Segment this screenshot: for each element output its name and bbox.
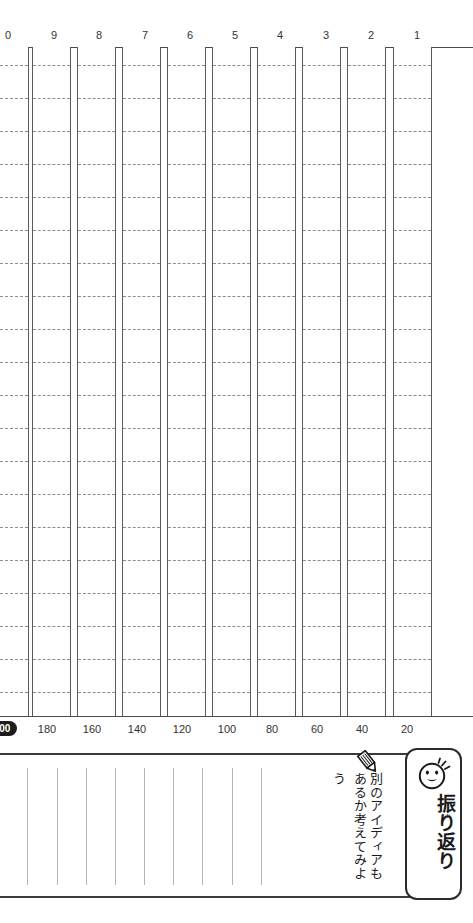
grid-column-3[interactable]: [77, 47, 116, 717]
grid-cell-divider: [394, 263, 431, 264]
reflection-prompt-line-3: う: [331, 772, 345, 786]
grid-cell-divider: [394, 428, 431, 429]
grid-cell-divider: [258, 494, 295, 495]
grid-column-1[interactable]: [0, 47, 29, 717]
grid-cell-divider: [348, 197, 385, 198]
grid-cell-divider: [33, 362, 70, 363]
grid-cell-divider: [303, 362, 340, 363]
grid-cell-divider: [348, 395, 385, 396]
grid-cell-divider: [394, 329, 431, 330]
reflection-writing-panel[interactable]: [0, 753, 462, 898]
grid-cell-divider: [123, 494, 160, 495]
grid-cell-divider: [33, 461, 70, 462]
grid-cell-divider: [394, 65, 431, 66]
grid-cell-divider: [348, 329, 385, 330]
grid-cell-divider: [78, 164, 115, 165]
grid-cell-divider: [168, 626, 205, 627]
grid-cell-divider: [213, 65, 250, 66]
grid-cell-divider: [348, 131, 385, 132]
grid-cell-divider: [258, 626, 295, 627]
grid-column-8[interactable]: [302, 47, 341, 717]
reflection-rule-line: [232, 768, 233, 885]
grid-cell-divider: [123, 395, 160, 396]
grid-cell-divider: [78, 362, 115, 363]
grid-cell-divider: [33, 263, 70, 264]
grid-cell-divider: [258, 362, 295, 363]
grid-cell-divider: [33, 626, 70, 627]
grid-cell-divider: [78, 65, 115, 66]
grid-cell-divider: [0, 692, 28, 693]
grid-cell-divider: [394, 626, 431, 627]
grid-column-10[interactable]: [393, 47, 432, 717]
grid-cell-divider: [78, 692, 115, 693]
grid-column-9[interactable]: [347, 47, 386, 717]
grid-cell-divider: [303, 164, 340, 165]
grid-cell-divider: [213, 626, 250, 627]
character-count-140: 140: [124, 721, 150, 737]
column-number-0: 0: [0, 28, 17, 42]
grid-cell-divider: [348, 296, 385, 297]
grid-cell-divider: [0, 659, 28, 660]
grid-cell-divider: [78, 560, 115, 561]
grid-cell-divider: [123, 659, 160, 660]
grid-cell-divider: [303, 560, 340, 561]
grid-cell-divider: [0, 263, 28, 264]
grid-cell-divider: [258, 65, 295, 66]
grid-cell-divider: [213, 527, 250, 528]
grid-cell-divider: [78, 263, 115, 264]
grid-cell-divider: [213, 296, 250, 297]
grid-column-5[interactable]: [167, 47, 206, 717]
grid-cell-divider: [258, 461, 295, 462]
grid-cell-divider: [303, 461, 340, 462]
character-count-80: 80: [259, 721, 285, 737]
grid-cell-divider: [78, 98, 115, 99]
grid-cell-divider: [0, 296, 28, 297]
grid-cell-divider: [0, 98, 28, 99]
grid-cell-divider: [258, 263, 295, 264]
grid-cell-divider: [303, 230, 340, 231]
grid-cell-divider: [394, 527, 431, 528]
grid-cell-divider: [33, 593, 70, 594]
manuscript-grid[interactable]: [0, 47, 473, 717]
grid-cell-divider: [303, 197, 340, 198]
grid-cell-divider: [258, 527, 295, 528]
grid-cell-divider: [348, 494, 385, 495]
grid-cell-divider: [168, 527, 205, 528]
grid-cell-divider: [348, 428, 385, 429]
grid-cell-divider: [33, 692, 70, 693]
grid-column-4[interactable]: [122, 47, 161, 717]
grid-cell-divider: [303, 626, 340, 627]
grid-cell-divider: [303, 65, 340, 66]
grid-cell-divider: [303, 98, 340, 99]
grid-cell-divider: [168, 395, 205, 396]
grid-cell-divider: [123, 131, 160, 132]
grid-cell-divider: [123, 626, 160, 627]
column-number-2: 2: [362, 28, 380, 42]
grid-column-2[interactable]: [32, 47, 71, 717]
grid-cell-divider: [0, 131, 28, 132]
grid-cell-divider: [0, 395, 28, 396]
grid-cell-divider: [348, 659, 385, 660]
reflection-title-furigana: ふ: [443, 811, 451, 818]
grid-cell-divider: [123, 362, 160, 363]
grid-cell-divider: [168, 362, 205, 363]
grid-cell-divider: [33, 197, 70, 198]
reflection-rule-line: [261, 768, 262, 885]
grid-cell-divider: [394, 362, 431, 363]
grid-column-6[interactable]: [212, 47, 251, 717]
grid-cell-divider: [394, 230, 431, 231]
smiley-face-icon: [417, 757, 451, 791]
grid-cell-divider: [78, 494, 115, 495]
grid-cell-divider: [168, 329, 205, 330]
grid-cell-divider: [394, 494, 431, 495]
grid-cell-divider: [168, 593, 205, 594]
grid-cell-divider: [394, 659, 431, 660]
grid-cell-divider: [213, 263, 250, 264]
grid-cell-divider: [394, 461, 431, 462]
grid-cell-divider: [168, 494, 205, 495]
grid-cell-divider: [33, 131, 70, 132]
grid-cell-divider: [258, 395, 295, 396]
grid-column-7[interactable]: [257, 47, 296, 717]
grid-cell-divider: [258, 659, 295, 660]
grid-cell-divider: [123, 560, 160, 561]
